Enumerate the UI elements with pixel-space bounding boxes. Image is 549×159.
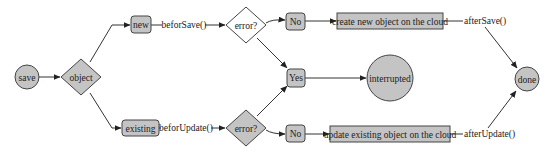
edge-error-top-no (266, 20, 285, 23)
no-bottom-label: No (290, 129, 302, 139)
edge-object-existing (90, 93, 121, 128)
node-no-bottom: No (286, 125, 305, 142)
yes-label: Yes (289, 73, 303, 83)
node-error-bottom: error? (226, 110, 266, 146)
edge-aftersave-done (485, 27, 517, 68)
create-label: create new object on the cloud (332, 17, 448, 27)
object-label: object (69, 73, 93, 83)
node-update: update existing object on the cloud (324, 126, 457, 142)
interrupted-label: interrupted (369, 74, 411, 84)
no-top-label: No (290, 17, 302, 27)
edge-error-bottom-yes (257, 86, 287, 116)
error-bottom-label: error? (235, 124, 258, 134)
node-create: create new object on the cloud (332, 13, 448, 29)
existing-label: existing (125, 124, 155, 134)
node-save: save (15, 65, 39, 89)
edge-object-new (90, 25, 130, 62)
node-interrupted: interrupted (367, 55, 413, 101)
node-done: done (515, 67, 539, 91)
edge-afterupdate-done (488, 91, 516, 128)
node-no-top: No (286, 13, 305, 30)
befor-save-label: beforSave() (162, 20, 207, 31)
befor-update-label: beforUpdate() (159, 123, 213, 134)
update-label: update existing object on the cloud (324, 130, 457, 140)
edge-error-top-yes (257, 38, 287, 68)
edges (39, 20, 517, 134)
node-object: object (61, 59, 101, 95)
node-error-top: error? (226, 7, 266, 43)
edge-error-bottom-no (266, 130, 285, 134)
new-label: new (133, 20, 149, 30)
save-label: save (19, 73, 36, 83)
done-label: done (518, 75, 536, 85)
node-existing: existing (122, 120, 159, 136)
node-new: new (131, 16, 151, 33)
error-top-label: error? (235, 21, 258, 31)
node-yes: Yes (287, 69, 305, 87)
after-update-label: afterUpdate() (464, 129, 515, 140)
flowchart-diagram: save object new beforSave() error? No cr… (0, 0, 549, 159)
after-save-label: afterSave() (464, 16, 506, 27)
